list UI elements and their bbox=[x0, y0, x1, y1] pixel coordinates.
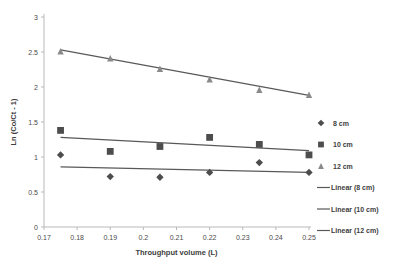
y-tick-label: 3 bbox=[34, 14, 38, 21]
y-axis-title: Ln (Co/Ct - 1) bbox=[9, 98, 18, 146]
data-point bbox=[57, 151, 64, 158]
legend-label: 8 cm bbox=[333, 120, 349, 127]
x-tick-label: 0.24 bbox=[269, 234, 283, 241]
legend-label: 12 cm bbox=[333, 163, 353, 170]
y-tick-label: 0 bbox=[34, 224, 38, 231]
x-tick-label: 0.2 bbox=[139, 234, 149, 241]
data-point bbox=[57, 48, 63, 54]
x-tick-label: 0.17 bbox=[37, 234, 51, 241]
legend-item[interactable]: 8 cm bbox=[318, 120, 349, 127]
data-point bbox=[306, 152, 313, 159]
y-axis-ticks: 00.511.522.53 bbox=[28, 14, 44, 231]
data-point bbox=[157, 143, 164, 150]
legend-item[interactable]: Linear (10 cm) bbox=[317, 206, 378, 214]
chart-container: 00.511.522.53 0.170.180.190.20.210.220.2… bbox=[0, 0, 401, 266]
x-tick-label: 0.19 bbox=[103, 234, 117, 241]
data-point bbox=[57, 127, 64, 134]
y-tick-label: 2 bbox=[34, 84, 38, 91]
x-axis-group: 0.170.180.190.20.210.220.230.240.25 bbox=[37, 227, 316, 241]
x-tick-label: 0.18 bbox=[70, 234, 84, 241]
y-axis-group: 00.511.522.53 bbox=[28, 14, 44, 231]
data-point bbox=[305, 169, 312, 176]
legend-label: Linear (12 cm) bbox=[331, 227, 378, 235]
data-point bbox=[206, 134, 213, 141]
legend-label: Linear (8 cm) bbox=[331, 184, 375, 192]
data-point bbox=[107, 148, 114, 155]
legend-marker-swatch bbox=[318, 120, 325, 127]
data-point bbox=[156, 174, 163, 181]
x-axis-title: Throughput volume (L) bbox=[135, 248, 218, 257]
legend-label: Linear (10 cm) bbox=[331, 206, 378, 214]
series-10-cm bbox=[57, 127, 312, 158]
x-axis-ticks: 0.170.180.190.20.210.220.230.240.25 bbox=[37, 227, 316, 241]
data-point bbox=[256, 159, 263, 166]
series-8-cm bbox=[57, 151, 313, 181]
x-tick-label: 0.22 bbox=[203, 234, 217, 241]
data-point bbox=[107, 173, 114, 180]
y-tick-label: 1 bbox=[34, 154, 38, 161]
legend-item[interactable]: Linear (8 cm) bbox=[317, 184, 375, 192]
x-tick-label: 0.25 bbox=[302, 234, 316, 241]
legend-marker-swatch bbox=[318, 142, 324, 148]
x-tick-label: 0.23 bbox=[236, 234, 250, 241]
trendline bbox=[61, 167, 309, 173]
data-series-group bbox=[57, 48, 313, 181]
trendline bbox=[61, 137, 309, 150]
chart-legend: 8 cm10 cm12 cmLinear (8 cm)Linear (10 cm… bbox=[317, 120, 378, 236]
scatter-chart: 00.511.522.53 0.170.180.190.20.210.220.2… bbox=[0, 0, 401, 266]
legend-item[interactable]: 10 cm bbox=[318, 141, 353, 148]
data-point bbox=[256, 141, 263, 148]
legend-item[interactable]: 12 cm bbox=[318, 163, 353, 170]
y-tick-label: 2.5 bbox=[28, 49, 38, 56]
trendlines-group bbox=[61, 50, 309, 172]
data-point bbox=[256, 87, 262, 93]
x-tick-label: 0.21 bbox=[170, 234, 184, 241]
y-tick-label: 0.5 bbox=[28, 189, 38, 196]
legend-label: 10 cm bbox=[333, 141, 353, 148]
legend-item[interactable]: Linear (12 cm) bbox=[317, 227, 378, 235]
legend-marker-swatch bbox=[318, 163, 324, 169]
trendline bbox=[61, 50, 309, 96]
y-tick-label: 1.5 bbox=[28, 119, 38, 126]
